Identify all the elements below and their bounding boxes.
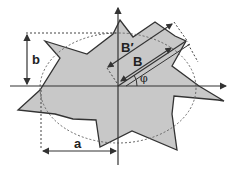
label-B: B — [133, 54, 142, 69]
label-b: b — [32, 52, 40, 67]
label-b-prime: B′ — [121, 40, 134, 55]
label-phi: φ — [140, 72, 148, 85]
label-a: a — [74, 136, 82, 151]
diagram: b a B′ B φ — [0, 0, 236, 171]
b-prime-dotted-tail — [188, 44, 198, 62]
